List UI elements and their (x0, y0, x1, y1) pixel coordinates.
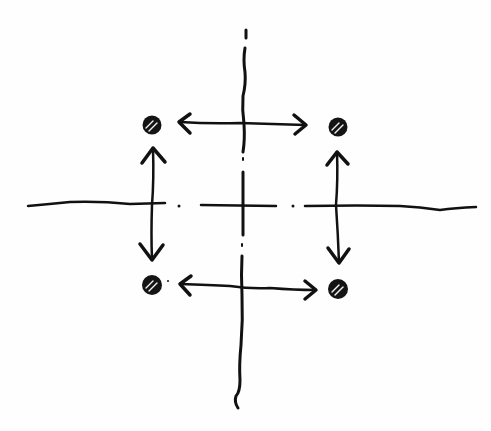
bottom-horizontal-dimension-arrow (180, 276, 316, 299)
hole-bottom-right (328, 279, 348, 299)
horizontal-center-line (28, 202, 476, 210)
vertical-center-line (235, 30, 246, 408)
hole-bottom-left (142, 275, 169, 295)
hole-top-right (329, 118, 348, 137)
sketch-canvas (0, 0, 491, 431)
right-vertical-dimension-arrow (327, 152, 349, 263)
hole-pattern-diagram (0, 0, 491, 431)
hole-top-left (143, 116, 162, 135)
